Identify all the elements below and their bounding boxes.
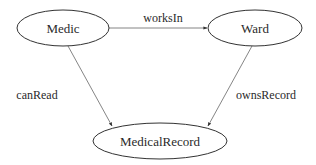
- edge-line-can-read: [68, 46, 112, 126]
- edge-line-owns-record: [208, 46, 252, 126]
- edge-label-works-in: worksIn: [143, 11, 182, 25]
- edge-can-read: canRead: [16, 46, 112, 126]
- edge-label-can-read: canRead: [16, 88, 57, 102]
- node-label-medic: Medic: [46, 21, 79, 36]
- node-medic: Medic: [17, 10, 109, 46]
- node-label-medical-record: MedicalRecord: [120, 134, 201, 149]
- node-medical-record: MedicalRecord: [93, 123, 227, 159]
- edge-owns-record: ownsRecord: [208, 46, 296, 126]
- diagram-canvas: worksIn canRead ownsRecord Medic Ward Me…: [0, 0, 316, 165]
- node-label-ward: Ward: [241, 21, 269, 36]
- edge-label-owns-record: ownsRecord: [236, 88, 296, 102]
- edge-works-in: worksIn: [109, 11, 207, 28]
- node-ward: Ward: [208, 10, 302, 46]
